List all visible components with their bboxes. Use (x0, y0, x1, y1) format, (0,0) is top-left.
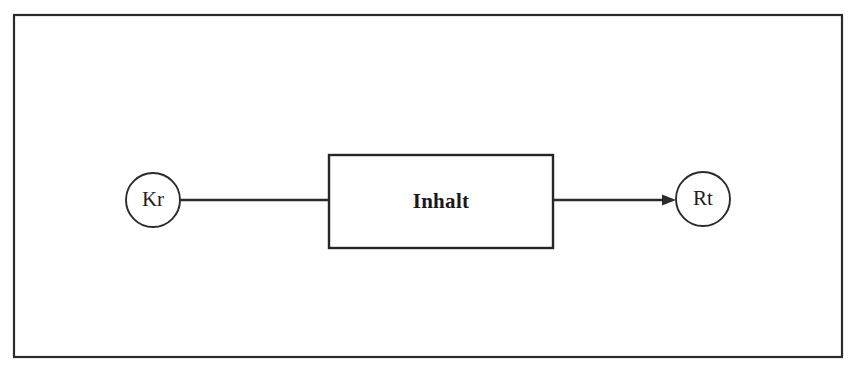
node-rt-label: Rt (693, 186, 713, 210)
diagram-canvas: Kr Inhalt Rt (0, 0, 852, 375)
diagram-surface: Kr Inhalt Rt (0, 0, 852, 375)
node-kr-label: Kr (142, 187, 164, 211)
node-inhalt-label: Inhalt (413, 189, 470, 213)
